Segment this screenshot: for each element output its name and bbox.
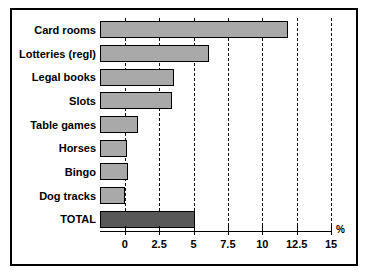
x-tick-label-10: 10 [256, 238, 268, 250]
chart-row [100, 160, 331, 184]
x-tick-2.5 [159, 226, 160, 235]
category-label-table-games: Table games [30, 119, 96, 131]
x-tick-15 [331, 226, 332, 235]
category-label-slots: Slots [69, 95, 96, 107]
bar-card-rooms [100, 21, 288, 38]
x-tick-5 [194, 226, 195, 235]
gridline-15 [331, 18, 332, 231]
plot-area [100, 18, 331, 231]
category-label-bingo: Bingo [65, 166, 96, 178]
category-label-lotteries-regl: Lotteries (regl) [19, 48, 96, 60]
x-tick-10 [262, 226, 263, 235]
x-tick-12.5 [297, 226, 298, 235]
category-label-horses: Horses [59, 142, 96, 154]
chart-row [100, 136, 331, 160]
x-tick-label-0: 0 [122, 238, 128, 250]
bar-horses [100, 140, 127, 157]
x-tick-0 [125, 226, 126, 235]
category-label-dog-tracks: Dog tracks [39, 190, 96, 202]
bar-lotteries-regl [100, 45, 209, 62]
x-axis-unit-label: % [336, 224, 345, 235]
category-label-total: TOTAL [60, 213, 96, 225]
chart-row [100, 184, 331, 208]
bar-table-games [100, 116, 138, 133]
bar-total [100, 211, 195, 228]
x-tick-label-2.5: 2.5 [151, 238, 166, 250]
bar-legal-books [100, 69, 174, 86]
bar-bingo [100, 163, 128, 180]
bar-chart-figure: % Card roomsLotteries (regl)Legal booksS… [0, 0, 370, 276]
x-tick-label-5: 5 [190, 238, 196, 250]
x-tick-label-12.5: 12.5 [286, 238, 307, 250]
x-tick-label-7.5: 7.5 [220, 238, 235, 250]
category-label-card-rooms: Card rooms [34, 24, 96, 36]
bar-dog-tracks [100, 187, 125, 204]
x-tick-label-15: 15 [325, 238, 337, 250]
category-label-legal-books: Legal books [32, 71, 96, 83]
x-tick-7.5 [228, 226, 229, 235]
bar-slots [100, 92, 172, 109]
